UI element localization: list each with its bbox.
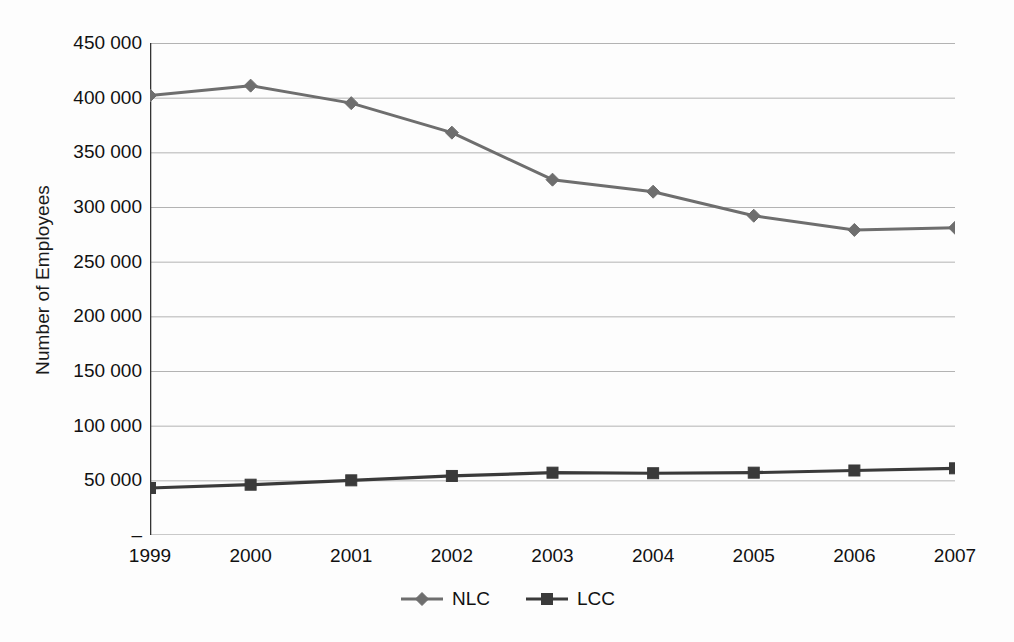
plot-canvas	[150, 43, 955, 535]
chart-legend: NLCLCC	[0, 588, 1014, 610]
y-tick-label: 400 000	[2, 88, 142, 107]
legend-marker	[415, 593, 428, 606]
data-point-marker	[950, 463, 956, 474]
legend-label: NLC	[452, 588, 490, 610]
series-nlc	[150, 79, 955, 236]
x-tick-label: 2003	[531, 546, 573, 565]
gridlines	[150, 44, 955, 536]
x-tick-label: 2007	[934, 546, 976, 565]
data-point-marker	[848, 223, 861, 236]
y-tick-label: 350 000	[2, 142, 142, 161]
legend-item-nlc[interactable]: NLC	[399, 588, 490, 610]
y-tick-label: 450 000	[2, 33, 142, 52]
y-tick-label: 100 000	[2, 416, 142, 435]
data-point-marker	[150, 89, 157, 102]
x-tick-label: 2002	[431, 546, 473, 565]
axis-lines	[150, 43, 955, 535]
x-tick-label: 1999	[129, 546, 171, 565]
data-point-marker	[546, 173, 559, 186]
x-tick-label: 2000	[229, 546, 271, 565]
data-point-marker	[244, 79, 257, 92]
y-axis-tick-labels: –50 000100 000150 000200 000250 000300 0…	[0, 0, 142, 642]
data-point-marker	[547, 467, 558, 478]
y-tick-label: –	[2, 525, 142, 544]
series-lcc	[150, 463, 955, 494]
x-tick-label: 2001	[330, 546, 372, 565]
legend-marker	[542, 594, 553, 605]
data-point-marker	[647, 185, 660, 198]
data-point-marker	[747, 209, 760, 222]
y-tick-label: 50 000	[2, 470, 142, 489]
data-point-marker	[849, 465, 860, 476]
y-tick-label: 150 000	[2, 361, 142, 380]
plot-area	[150, 43, 955, 535]
data-point-marker	[949, 221, 956, 234]
square-marker	[524, 590, 570, 608]
data-series-layer	[150, 79, 955, 493]
legend-label: LCC	[577, 588, 615, 610]
data-point-marker	[346, 475, 357, 486]
y-tick-label: 250 000	[2, 252, 142, 271]
x-tick-label: 2004	[632, 546, 674, 565]
data-point-marker	[648, 468, 659, 479]
data-point-marker	[245, 479, 256, 490]
data-point-marker	[150, 482, 156, 493]
x-axis-tick-labels: 199920002001200220032004200520062007	[150, 546, 955, 576]
data-point-marker	[748, 467, 759, 478]
series-line	[150, 86, 955, 230]
data-point-marker	[445, 126, 458, 139]
legend-item-lcc[interactable]: LCC	[524, 588, 615, 610]
data-point-marker	[446, 470, 457, 481]
y-tick-label: 200 000	[2, 306, 142, 325]
x-tick-label: 2006	[833, 546, 875, 565]
diamond-marker	[399, 590, 445, 608]
x-tick-label: 2005	[733, 546, 775, 565]
y-tick-label: 300 000	[2, 197, 142, 216]
line-chart-figure: Number of Employees –50 000100 000150 00…	[0, 0, 1014, 642]
